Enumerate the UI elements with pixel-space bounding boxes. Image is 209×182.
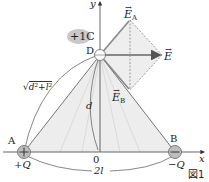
charge-A-label: +Q [14,160,31,170]
distance-OD-label: d [86,101,92,111]
point-D-label: D [86,46,94,56]
vector-E-label: →E [164,51,172,62]
vector-EB-label: →EB [112,92,125,105]
figure-caption: 図1 [188,170,204,180]
distance-AD-label: √d²+l² [23,83,52,92]
bracket-AB-right [110,156,173,171]
vector-arrow-icon: → [125,4,132,12]
point-B-label: B [170,134,177,144]
distance-AD-radicand: d²+l² [29,81,52,92]
origin-label: 0 [93,155,99,165]
vector-arrow-icon: → [165,46,172,54]
bracket-AB-left [27,156,92,171]
x-axis-label: x [199,154,205,164]
triangle-ADB [24,55,175,152]
field-diagram: +1C y x 0 D A B +Q −Q √d²+l² d 2l →EA →E… [0,0,209,182]
sqrt-sign: √ [23,82,29,92]
distance-AB-label: 2l [94,166,104,176]
vector-arrow-icon: → [113,87,120,95]
charge-B-label: −Q [168,160,185,170]
vector-EA-label: →EA [124,9,137,22]
y-axis-label: y [90,0,96,9]
point-A-label: A [8,136,15,146]
test-charge-label: +1C [70,31,95,42]
